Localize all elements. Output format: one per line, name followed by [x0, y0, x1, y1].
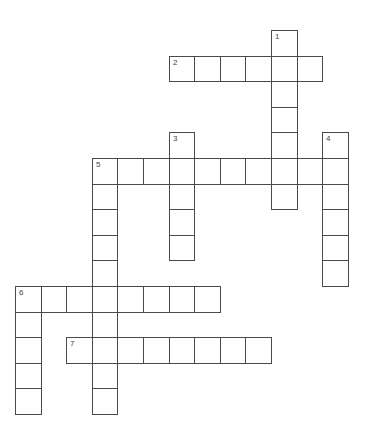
crossword-cell[interactable] [322, 184, 349, 210]
crossword-cell[interactable] [322, 235, 349, 261]
crossword-cell[interactable] [271, 81, 298, 108]
clue-number: 2 [173, 58, 177, 67]
crossword-cell[interactable] [322, 209, 349, 236]
crossword-cell[interactable] [92, 388, 118, 415]
crossword-cell[interactable] [41, 286, 67, 313]
crossword-cell[interactable] [15, 312, 42, 338]
crossword-cell[interactable]: 7 [66, 337, 93, 364]
crossword-cell[interactable] [271, 158, 298, 185]
crossword-cell[interactable] [92, 286, 118, 313]
crossword-cell[interactable]: 2 [169, 56, 195, 82]
crossword-cell[interactable] [117, 158, 144, 185]
crossword-cell[interactable]: 6 [15, 286, 42, 313]
clue-number: 3 [173, 134, 177, 143]
crossword-cell[interactable] [297, 56, 323, 82]
crossword-cell[interactable] [92, 184, 118, 210]
crossword-cell[interactable] [245, 337, 272, 364]
crossword-grid: 1234567 [0, 0, 369, 435]
crossword-cell[interactable] [92, 363, 118, 389]
crossword-cell[interactable] [143, 337, 170, 364]
crossword-cell[interactable] [271, 184, 298, 210]
crossword-cell[interactable] [92, 337, 118, 364]
crossword-cell[interactable] [169, 286, 195, 313]
crossword-cell[interactable] [220, 158, 246, 185]
crossword-cell[interactable]: 5 [92, 158, 118, 185]
crossword-cell[interactable] [92, 312, 118, 338]
crossword-cell[interactable] [15, 388, 42, 415]
crossword-cell[interactable] [92, 209, 118, 236]
crossword-cell[interactable] [143, 158, 170, 185]
crossword-cell[interactable] [66, 286, 93, 313]
crossword-cell[interactable] [15, 363, 42, 389]
clue-number: 1 [275, 32, 279, 41]
crossword-cell[interactable] [245, 56, 272, 82]
crossword-cell[interactable]: 1 [271, 30, 298, 57]
crossword-cell[interactable] [194, 158, 221, 185]
crossword-cell[interactable] [194, 286, 221, 313]
crossword-cell[interactable] [15, 337, 42, 364]
crossword-cell[interactable] [169, 235, 195, 261]
clue-number: 4 [326, 134, 330, 143]
crossword-cell[interactable] [322, 158, 349, 185]
crossword-cell[interactable] [271, 132, 298, 159]
crossword-cell[interactable] [169, 184, 195, 210]
clue-number: 5 [96, 160, 100, 169]
crossword-cell[interactable] [245, 158, 272, 185]
crossword-cell[interactable] [194, 337, 221, 364]
crossword-cell[interactable] [271, 107, 298, 133]
crossword-cell[interactable] [297, 158, 323, 185]
crossword-cell[interactable] [220, 56, 246, 82]
crossword-cell[interactable] [271, 56, 298, 82]
crossword-cell[interactable] [169, 158, 195, 185]
clue-number: 6 [19, 288, 23, 297]
crossword-cell[interactable] [143, 286, 170, 313]
crossword-cell[interactable] [194, 56, 221, 82]
crossword-cell[interactable] [220, 337, 246, 364]
crossword-cell[interactable] [322, 260, 349, 287]
crossword-cell[interactable] [92, 260, 118, 287]
crossword-cell[interactable] [92, 235, 118, 261]
crossword-cell[interactable] [117, 337, 144, 364]
crossword-cell[interactable]: 3 [169, 132, 195, 159]
crossword-cell[interactable]: 4 [322, 132, 349, 159]
clue-number: 7 [70, 339, 74, 348]
crossword-cell[interactable] [169, 209, 195, 236]
crossword-cell[interactable] [169, 337, 195, 364]
crossword-cell[interactable] [117, 286, 144, 313]
